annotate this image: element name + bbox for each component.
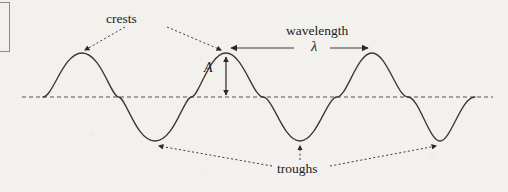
wavelength-label: wavelength bbox=[286, 23, 348, 39]
wave-diagram bbox=[0, 0, 508, 192]
crests-leader-right bbox=[167, 27, 221, 50]
troughs-leader-left bbox=[159, 146, 272, 166]
troughs-label: troughs bbox=[277, 161, 318, 177]
lambda-symbol-label: λ bbox=[311, 38, 317, 55]
amplitude-symbol-label: A bbox=[204, 60, 213, 76]
troughs-leader-right bbox=[330, 146, 436, 166]
crests-leader-left bbox=[85, 27, 125, 50]
crests-label: crests bbox=[106, 11, 137, 27]
